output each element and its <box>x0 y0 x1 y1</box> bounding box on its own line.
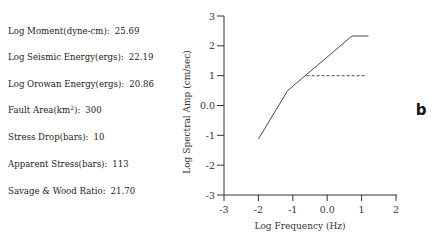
y-tick-label: 3 <box>209 11 215 22</box>
y-tick-label: -2 <box>206 160 215 171</box>
x-tick-label: 0.0 <box>320 204 335 215</box>
x-tick-label: 2 <box>393 204 399 215</box>
y-tick-label: -1 <box>206 130 215 141</box>
spectrum-line <box>258 36 368 139</box>
x-tick-label: -2 <box>254 204 263 215</box>
x-tick-label: -1 <box>288 204 297 215</box>
x-tick-label: -3 <box>219 204 228 215</box>
y-tick-label: 0.0 <box>200 100 215 111</box>
chart-axes: -3-2-10.0123-3-2-10.012 <box>200 11 399 216</box>
y-tick-label: 2 <box>209 40 215 51</box>
y-tick-label: 1 <box>209 70 215 81</box>
x-tick-label: 1 <box>359 204 365 215</box>
y-axis-title: Log Spectral Amp (cm/sec) <box>182 50 192 174</box>
y-tick-label: -3 <box>206 190 215 201</box>
spectrum-chart: -3-2-10.0123-3-2-10.012 Log Frequency (H… <box>0 0 433 240</box>
panel-label: b <box>416 101 427 119</box>
x-axis-title: Log Frequency (Hz) <box>254 221 345 231</box>
chart-series <box>258 36 368 139</box>
